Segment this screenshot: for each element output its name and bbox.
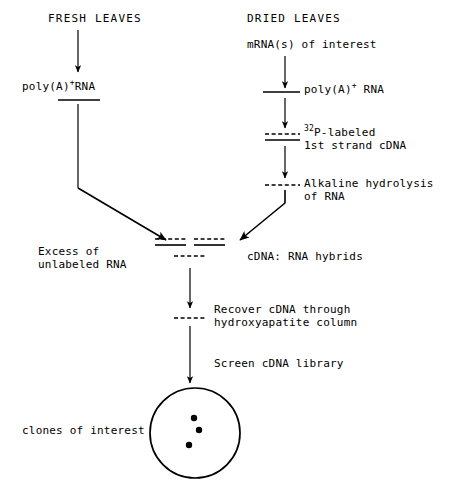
excess-unlabeled-rna-line1: Excess of bbox=[38, 245, 99, 258]
alkaline-hydrolysis-line1: Alkaline hydrolysis bbox=[304, 177, 434, 190]
flowchart-diagram: FRESH LEAVES DRIED LEAVES mRNA(s) of int… bbox=[0, 0, 455, 501]
poly-a-left-suffix: RNA bbox=[75, 80, 95, 93]
poly-a-rna-left-label: poly(A)+RNA bbox=[22, 80, 95, 93]
arrow-left-to-hybrid bbox=[78, 188, 166, 240]
fresh-leaves-title: FRESH LEAVES bbox=[48, 12, 142, 25]
alkaline-hydrolysis-line2: of RNA bbox=[304, 190, 345, 203]
clone-colony-2 bbox=[196, 427, 202, 433]
arrow-right-to-hybrid bbox=[240, 190, 285, 240]
poly-a-right-suffix: RNA bbox=[357, 83, 384, 96]
poly-a-left-text: poly(A) bbox=[22, 80, 70, 93]
cdna-rna-hybrids-label: cDNA: RNA hybrids bbox=[247, 250, 363, 263]
clone-colony-1 bbox=[191, 415, 197, 421]
mrna-of-interest-label: mRNA(s) of interest bbox=[247, 38, 377, 51]
p-labeled-cdna-label: 32P-labeled bbox=[304, 126, 375, 139]
p-labeled-line1: P-labeled bbox=[314, 126, 375, 139]
p32-superscript: 32 bbox=[304, 124, 314, 133]
dried-leaves-title: DRIED LEAVES bbox=[247, 12, 341, 25]
screen-cdna-library-label: Screen cDNA library bbox=[214, 357, 344, 370]
poly-a-rna-right-label: poly(A)+ RNA bbox=[304, 83, 384, 96]
petri-dish bbox=[150, 388, 240, 478]
poly-a-right-text: poly(A) bbox=[304, 83, 352, 96]
recover-cdna-line2: hydroxyapatite column bbox=[214, 316, 357, 329]
p-labeled-line2: 1st strand cDNA bbox=[304, 139, 406, 152]
clone-colony-3 bbox=[186, 442, 192, 448]
excess-unlabeled-rna-line2: unlabeled RNA bbox=[38, 258, 127, 271]
recover-cdna-line1: Recover cDNA through bbox=[214, 303, 350, 316]
clones-of-interest-label: clones of interest bbox=[22, 424, 145, 437]
